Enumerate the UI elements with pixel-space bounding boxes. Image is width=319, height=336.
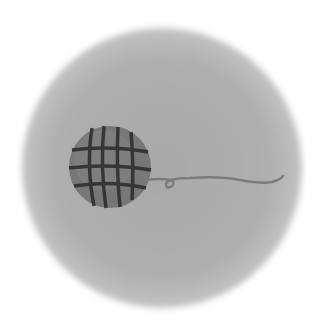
yarn-illustration [0,0,319,336]
yarn-thread [146,176,283,188]
yarn-ball-icon [69,126,151,208]
